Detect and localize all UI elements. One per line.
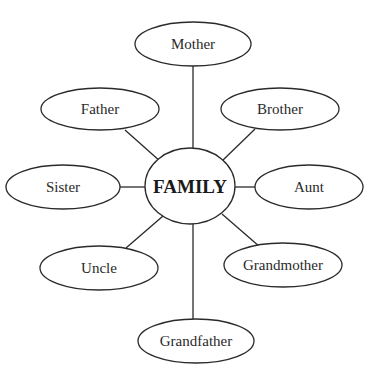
node-label: Sister bbox=[46, 179, 80, 195]
node-label: Father bbox=[81, 101, 119, 117]
node-grandfather: Grandfather bbox=[138, 319, 254, 363]
center-node: FAMILY bbox=[145, 148, 235, 224]
node-label: Mother bbox=[171, 36, 215, 52]
node-father: Father bbox=[41, 88, 159, 130]
edge-family-brother bbox=[221, 129, 255, 162]
edge-family-uncle bbox=[126, 216, 163, 248]
edge-family-grandmother bbox=[222, 214, 260, 247]
node-label: Aunt bbox=[294, 179, 325, 195]
node-label: Brother bbox=[257, 101, 303, 117]
edge-family-father bbox=[125, 130, 161, 162]
node-label: Grandmother bbox=[243, 257, 323, 273]
node-uncle: Uncle bbox=[40, 246, 158, 290]
node-sister: Sister bbox=[6, 165, 120, 209]
node-label: Uncle bbox=[81, 260, 117, 276]
node-mother: Mother bbox=[135, 22, 251, 66]
node-aunt: Aunt bbox=[255, 165, 363, 209]
node-label: Grandfather bbox=[160, 333, 232, 349]
center-label: FAMILY bbox=[153, 176, 227, 197]
node-brother: Brother bbox=[221, 88, 339, 130]
family-mind-map: MotherFatherBrotherSisterAuntUncleGrandm… bbox=[0, 0, 367, 367]
node-grandmother: Grandmother bbox=[224, 243, 342, 287]
